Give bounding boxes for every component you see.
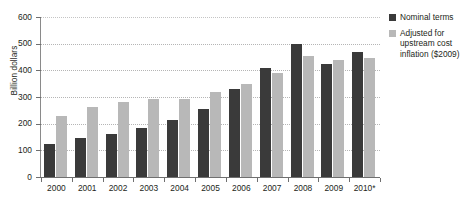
bar-nominal [291,44,302,177]
bar-adjusted [56,116,67,177]
chart-legend: Nominal termsAdjusted for upstream cost … [389,12,469,65]
bar-nominal [198,109,209,177]
bar-nominal [136,128,147,177]
bar-group [72,17,103,177]
bar-group [257,17,288,177]
bar-adjusted [87,107,98,177]
x-tick-mark [164,178,165,182]
x-tick-mark [349,178,350,182]
x-tick-mark [288,178,289,182]
bar-nominal [75,138,86,177]
bar-adjusted [148,99,159,177]
y-tick-label: 400 [6,66,32,74]
x-tick-mark [226,178,227,182]
plot-area: 0100200300400500600 20002001200220032004… [40,17,380,177]
bar-nominal [260,68,271,177]
bar-adjusted [303,56,314,177]
y-tick-label: 500 [6,39,32,47]
bar-nominal [44,144,55,177]
y-tick-label: 300 [6,93,32,101]
x-tick-label: 2010* [344,184,386,192]
y-tick-label: 600 [6,13,32,21]
bar-group [195,17,226,177]
legend-entry[interactable]: Nominal terms [389,12,469,22]
bar-adjusted [118,102,129,177]
bar-group [133,17,164,177]
bar-adjusted [364,58,375,177]
bar-nominal [352,52,363,177]
x-tick-mark [133,178,134,182]
y-tick-label: 100 [6,146,32,154]
bars-layer [41,17,380,177]
x-tick-mark [318,178,319,182]
bar-nominal [106,134,117,177]
x-tick-mark [41,178,42,182]
y-tick-label: 0 [6,173,32,181]
legend-entry[interactable]: Adjusted for upstream cost inflation ($2… [389,28,469,59]
y-tick-label: 200 [6,119,32,127]
bar-adjusted [272,73,283,177]
legend-swatch-icon [389,14,396,21]
bar-adjusted [210,92,221,177]
x-tick-mark [380,178,381,182]
bar-chart-figure: Billion dollars 0100200300400500600 2000… [0,0,469,206]
x-tick-mark [195,178,196,182]
legend-label: Adjusted for upstream cost inflation ($2… [400,28,469,59]
bar-group [41,17,72,177]
x-axis-line [40,177,380,178]
bar-adjusted [179,99,190,177]
legend-label: Nominal terms [400,12,469,22]
bar-adjusted [333,60,344,177]
legend-swatch-icon [389,30,396,37]
bar-adjusted [241,84,252,177]
bar-group [103,17,134,177]
bar-nominal [167,120,178,177]
x-tick-mark [72,178,73,182]
bar-nominal [321,64,332,177]
bar-group [288,17,319,177]
bar-group [226,17,257,177]
bar-group [318,17,349,177]
x-tick-mark [257,178,258,182]
bar-nominal [229,89,240,177]
bar-group [349,17,380,177]
bar-group [164,17,195,177]
x-tick-mark [103,178,104,182]
